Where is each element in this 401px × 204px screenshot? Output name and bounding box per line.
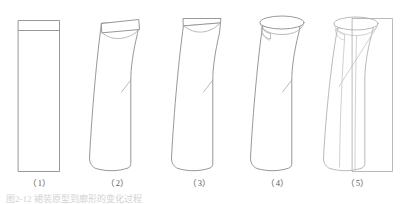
technical-drawing-svg [0, 0, 401, 204]
panel-4-waist-opening [260, 16, 304, 29]
caption-row: （1） （2） （3） （4） （5） [0, 176, 401, 190]
panel-4-body [251, 24, 301, 171]
panel-3-drawing [172, 19, 222, 171]
panel-4-drawing [251, 16, 305, 171]
panel-5-body [324, 25, 375, 171]
panel-3-body [172, 23, 221, 171]
figure-board: （1） （2） （3） （4） （5） 图2-12 裙装原型到廓形的变化过程 [0, 0, 401, 204]
panel-1-caption: （1） [10, 176, 70, 190]
panel-5-waist-opening [334, 17, 378, 30]
panel-1-body [19, 21, 60, 172]
panel-2-drawing [90, 20, 140, 171]
panel-5-caption: （5） [328, 176, 388, 190]
panel-3-caption: （3） [170, 176, 230, 190]
panel-2-caption: （2） [88, 176, 148, 190]
panel-1-drawing [19, 21, 60, 172]
panel-4-caption: （4） [248, 176, 308, 190]
figure-title: 图2-12 裙装原型到廓形的变化过程 [6, 194, 246, 204]
panel-5-drawing [324, 17, 393, 172]
panel-2-body [90, 24, 139, 171]
